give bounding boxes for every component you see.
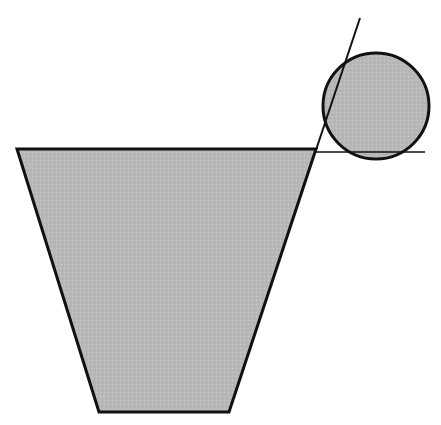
diagram-canvas — [0, 0, 441, 425]
circle-shape — [323, 53, 429, 159]
trapezoid-shape — [17, 149, 316, 412]
